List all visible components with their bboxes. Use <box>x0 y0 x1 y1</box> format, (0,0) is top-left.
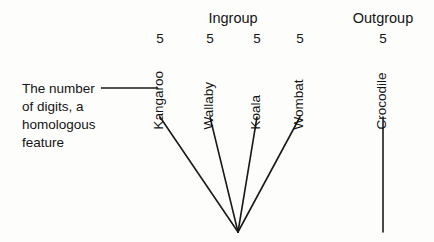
taxon-label-koala: Koala <box>249 95 263 130</box>
trait-count-crocodile: 5 <box>379 32 387 46</box>
trait-count-wallaby: 5 <box>206 32 214 46</box>
annotation-line-1: The number <box>22 80 152 98</box>
annotation-line-2: of digits, a <box>22 98 152 116</box>
group-header-ingroup: Ingroup <box>208 11 257 26</box>
taxon-label-wallaby: Wallaby <box>202 82 216 130</box>
trait-count-wombat: 5 <box>296 32 304 46</box>
trait-count-kangaroo: 5 <box>156 32 164 46</box>
group-header-outgroup: Outgroup <box>353 11 413 26</box>
annotation-line-3: homologous <box>22 116 152 134</box>
branch-line-kangaroo <box>160 117 238 232</box>
trait-count-koala: 5 <box>253 32 261 46</box>
cladogram-diagram: Ingroup Outgroup 5 5 5 5 5 Kangaroo Wall… <box>0 0 434 242</box>
annotation-line-4: feature <box>22 134 152 152</box>
annotation-text-block: The number of digits, a homologous featu… <box>22 80 152 152</box>
taxon-label-wombat: Wombat <box>292 79 306 129</box>
taxon-label-crocodile: Crocodile <box>375 72 389 129</box>
taxon-label-kangaroo: Kangaroo <box>152 71 166 130</box>
branch-line-wallaby <box>210 117 238 232</box>
